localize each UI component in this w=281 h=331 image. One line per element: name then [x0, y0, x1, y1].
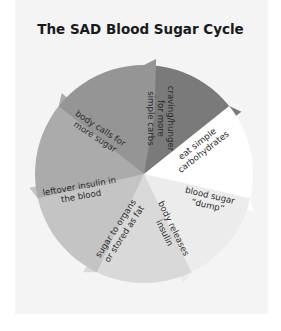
cycle-wheel: craving/hungerfor moresimple carbseat si…: [0, 0, 281, 331]
segment-label-line: for more: [156, 100, 166, 137]
segment-label-line: craving/hunger: [166, 86, 176, 152]
cycle-segments: [29, 59, 253, 283]
segment-label-line: simple carbs: [146, 91, 156, 146]
